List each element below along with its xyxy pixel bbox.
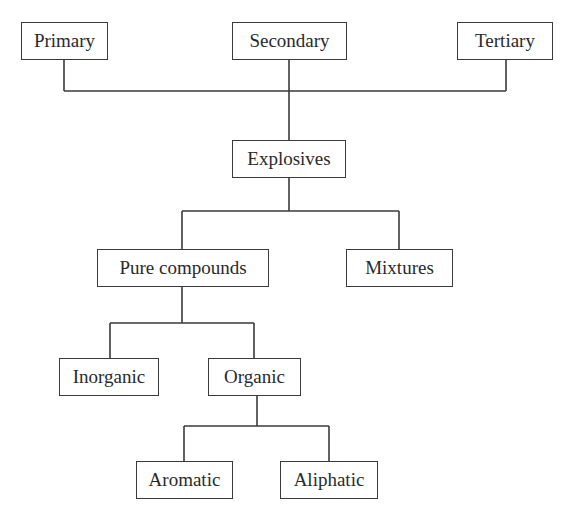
node-pure-compounds: Pure compounds bbox=[97, 249, 269, 287]
node-primary: Primary bbox=[21, 22, 108, 60]
node-label: Organic bbox=[224, 366, 285, 388]
node-secondary: Secondary bbox=[232, 22, 347, 60]
connector-lines bbox=[0, 0, 575, 519]
node-label: Explosives bbox=[247, 148, 330, 170]
node-label: Aromatic bbox=[149, 469, 221, 491]
node-tertiary: Tertiary bbox=[457, 22, 553, 60]
node-label: Pure compounds bbox=[119, 257, 246, 279]
node-label: Mixtures bbox=[365, 257, 434, 279]
node-label: Primary bbox=[34, 30, 95, 52]
node-aromatic: Aromatic bbox=[136, 461, 233, 499]
node-label: Inorganic bbox=[73, 366, 145, 388]
node-mixtures: Mixtures bbox=[346, 249, 453, 287]
node-label: Tertiary bbox=[475, 30, 535, 52]
explosives-classification-diagram: Primary Secondary Tertiary Explosives Pu… bbox=[0, 0, 575, 519]
node-explosives: Explosives bbox=[232, 140, 346, 178]
node-label: Secondary bbox=[249, 30, 329, 52]
node-label: Aliphatic bbox=[294, 469, 365, 491]
node-inorganic: Inorganic bbox=[59, 358, 159, 396]
node-organic: Organic bbox=[208, 358, 301, 396]
node-aliphatic: Aliphatic bbox=[280, 461, 378, 499]
